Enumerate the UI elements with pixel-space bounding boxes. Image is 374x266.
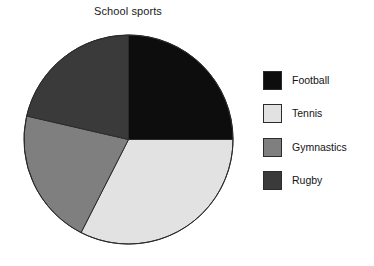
legend-item-gymnastics[interactable]: Gymnastics <box>263 137 367 157</box>
pie-plot-area <box>23 34 234 245</box>
legend-swatch-tennis <box>263 104 282 123</box>
pie-svg <box>23 34 234 245</box>
legend-label: Rugby <box>292 175 322 186</box>
pie-slice-football[interactable] <box>129 35 234 140</box>
pie-chart-figure: School sports FootballTennisGymnasticsRu… <box>0 0 374 266</box>
legend-swatch-football <box>263 71 282 90</box>
pie-slice-group <box>24 35 233 244</box>
legend-label: Gymnastics <box>292 142 347 153</box>
legend-label: Football <box>292 75 329 86</box>
legend-item-tennis[interactable]: Tennis <box>263 104 367 124</box>
legend-item-football[interactable]: Football <box>263 70 367 90</box>
chart-legend: FootballTennisGymnasticsRugby <box>263 70 367 204</box>
legend-swatch-rugby <box>263 171 282 190</box>
legend-swatch-gymnastics <box>263 138 282 157</box>
legend-item-rugby[interactable]: Rugby <box>263 171 367 191</box>
legend-label: Tennis <box>292 108 322 119</box>
chart-title: School sports <box>0 5 256 17</box>
